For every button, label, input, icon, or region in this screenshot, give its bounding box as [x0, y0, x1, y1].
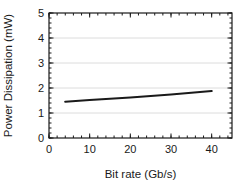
x-tick-label: 10 [84, 143, 96, 155]
line-chart: 010203040012345 Bit rate (Gb/s) Power Di… [0, 0, 240, 185]
y-tick-label: 1 [38, 107, 44, 119]
y-tick-label: 4 [38, 32, 44, 44]
y-tick-label: 2 [38, 82, 44, 94]
y-tick-label: 3 [38, 57, 44, 69]
plot-frame [49, 13, 232, 138]
chart-plot-area: 010203040012345 [38, 7, 232, 155]
x-tick-label: 20 [124, 143, 136, 155]
x-tick-label: 0 [46, 143, 52, 155]
chart-figure: 010203040012345 Bit rate (Gb/s) Power Di… [0, 0, 240, 185]
y-tick-label: 5 [38, 7, 44, 19]
y-tick-label: 0 [38, 132, 44, 144]
x-axis-title: Bit rate (Gb/s) [105, 168, 177, 180]
y-axis-title: Power Dissipation (mW) [2, 14, 14, 137]
series-power-dissipation [65, 91, 211, 102]
x-tick-label: 40 [206, 143, 218, 155]
x-tick-label: 30 [165, 143, 177, 155]
